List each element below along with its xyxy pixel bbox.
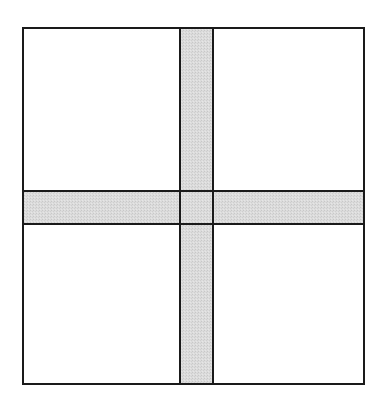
cross-diagram bbox=[0, 0, 387, 405]
horizontal-band bbox=[23, 191, 364, 224]
quadrant-bottom-left bbox=[23, 224, 180, 384]
quadrant-top-left bbox=[23, 28, 180, 191]
quadrant-top-right bbox=[213, 28, 364, 191]
quadrant-bottom-right bbox=[213, 224, 364, 384]
diagram-canvas bbox=[0, 0, 387, 405]
